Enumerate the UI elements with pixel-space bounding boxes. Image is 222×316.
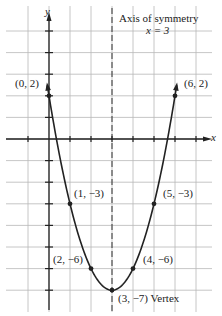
point-label-5-neg3: (5, −3): [163, 188, 193, 199]
point-label-6-2: (6, 2): [184, 78, 208, 89]
point-label-1-neg3: (1, −3): [74, 188, 104, 199]
point-label-4-neg6: (4, −6): [143, 254, 173, 265]
data-point: [68, 201, 73, 206]
x-axis-label: x: [211, 132, 216, 143]
data-point: [89, 266, 94, 271]
point-label-2-neg6: (2, −6): [53, 254, 83, 265]
parabola-graph: [0, 0, 222, 316]
data-point: [131, 266, 136, 271]
data-point: [173, 93, 178, 98]
grid-lines: [6, 6, 212, 312]
data-point: [47, 93, 52, 98]
curve-arrow-left-icon: [45, 83, 51, 91]
axis-of-symmetry-equation: x = 3: [146, 25, 169, 36]
data-point: [152, 201, 157, 206]
point-label-vertex: (3, −7) Vertex: [118, 293, 179, 304]
point-label-0-2: (0, 2): [15, 78, 39, 89]
axis-of-symmetry-title: Axis of symmetry: [119, 13, 198, 24]
data-point: [110, 288, 115, 293]
y-axis-label: y: [45, 6, 50, 17]
curve-arrow-right-icon: [173, 83, 179, 91]
